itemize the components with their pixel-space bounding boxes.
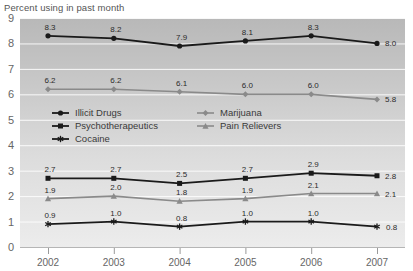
square-marker xyxy=(375,173,380,178)
data-point-label: 0.9 xyxy=(44,211,56,220)
x-tick-label: 2007 xyxy=(366,257,389,268)
square-marker xyxy=(46,176,51,181)
circle-marker xyxy=(45,33,50,38)
data-point-label: 1.0 xyxy=(242,209,254,218)
square-marker xyxy=(243,176,248,181)
data-point-label: 1.0 xyxy=(308,209,320,218)
y-tick-label: 0 xyxy=(8,241,14,253)
data-point-label: 2.8 xyxy=(385,172,397,181)
y-tick-label: 2 xyxy=(8,190,14,202)
x-axis-ticks: 200220032004200520062007 xyxy=(37,248,389,268)
legend-item-label: Marijuana xyxy=(220,107,262,118)
data-point-label: 6.2 xyxy=(44,76,56,85)
data-point-label: 1.0 xyxy=(110,209,122,218)
data-point-label: 1.9 xyxy=(242,186,254,195)
y-tick-label: 6 xyxy=(8,88,14,100)
data-point-label: 2.7 xyxy=(110,165,122,174)
x-tick-label: 2003 xyxy=(103,257,126,268)
x-tick-label: 2005 xyxy=(234,257,257,268)
data-point-label: 6.0 xyxy=(308,81,320,90)
circle-marker xyxy=(58,110,63,115)
y-tick-label: 9 xyxy=(8,12,14,24)
data-point-label: 2.1 xyxy=(308,181,320,190)
x-tick-label: 2002 xyxy=(37,257,60,268)
data-point-label: 5.8 xyxy=(385,95,397,104)
data-point-label: 6.0 xyxy=(242,81,254,90)
data-point-label: 2.7 xyxy=(44,165,56,174)
square-marker xyxy=(58,124,63,129)
data-point-label: 2.5 xyxy=(176,170,188,179)
circle-marker xyxy=(374,41,379,46)
x-tick-label: 2004 xyxy=(168,257,191,268)
legend-item-label: Cocaine xyxy=(75,133,110,144)
square-marker xyxy=(111,176,116,181)
legend-item-label: Pain Relievers xyxy=(220,120,281,131)
square-marker xyxy=(177,181,182,186)
data-point-label: 8.2 xyxy=(110,25,122,34)
circle-marker xyxy=(111,36,116,41)
x-tick-label: 2006 xyxy=(300,257,323,268)
data-point-label: 0.8 xyxy=(176,214,188,223)
y-axis-tick-labels: 0123456789 xyxy=(8,12,14,253)
y-tick-label: 3 xyxy=(8,165,14,177)
data-point-label: 8.0 xyxy=(385,39,397,48)
data-point-label: 8.3 xyxy=(308,23,320,32)
y-tick-label: 5 xyxy=(8,114,14,126)
legend-item-label: Illicit Drugs xyxy=(75,107,122,118)
square-marker xyxy=(309,171,314,176)
data-point-label: 6.2 xyxy=(110,76,122,85)
data-point-label: 1.9 xyxy=(44,186,56,195)
data-point-label: 2.7 xyxy=(242,165,254,174)
chart-container: Percent using in past month 0123456789 2… xyxy=(0,0,413,271)
data-point-label: 2.9 xyxy=(308,160,320,169)
data-point-label: 8.3 xyxy=(44,23,56,32)
data-point-label: 2.0 xyxy=(110,183,122,192)
y-tick-label: 8 xyxy=(8,37,14,49)
legend-item-label: Psychotherapeutics xyxy=(75,120,158,131)
y-tick-label: 1 xyxy=(8,216,14,228)
circle-marker xyxy=(177,43,182,48)
data-point-label: 1.8 xyxy=(176,188,188,197)
data-point-label: 2.1 xyxy=(385,190,397,199)
data-point-label: 7.9 xyxy=(176,33,188,42)
data-point-label: 8.1 xyxy=(242,28,254,37)
circle-marker xyxy=(243,38,248,43)
data-point-label: 6.1 xyxy=(176,79,188,88)
y-tick-label: 7 xyxy=(8,63,14,75)
y-tick-label: 4 xyxy=(8,139,14,151)
data-point-label: 0.8 xyxy=(386,223,398,232)
circle-marker xyxy=(309,33,314,38)
chart-plot: 0123456789 200220032004200520062007 8.38… xyxy=(0,0,413,271)
